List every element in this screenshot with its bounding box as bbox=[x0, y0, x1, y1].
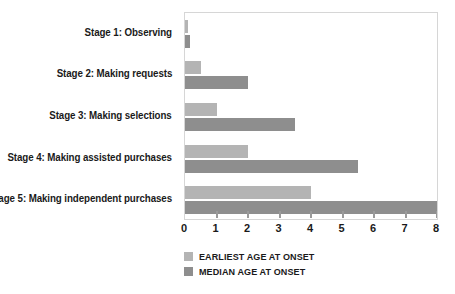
x-axis-tick-label: 3 bbox=[275, 222, 281, 234]
bar bbox=[185, 61, 201, 74]
bar-chart: Stage 1: ObservingStage 2: Making reques… bbox=[0, 0, 455, 294]
value-axis-labels: 012345678 bbox=[184, 222, 438, 240]
plot-area bbox=[184, 12, 438, 220]
legend-item[interactable]: EARLIEST AGE AT ONSET bbox=[184, 250, 444, 263]
axis-tick bbox=[436, 211, 438, 218]
x-axis-tick-label: 6 bbox=[370, 222, 376, 234]
axis-tick bbox=[373, 211, 375, 218]
bar bbox=[185, 76, 248, 89]
category-axis-labels: Stage 1: ObservingStage 2: Making reques… bbox=[0, 12, 178, 220]
chart-legend: EARLIEST AGE AT ONSETMEDIAN AGE AT ONSET bbox=[184, 250, 444, 280]
bar bbox=[185, 186, 311, 199]
legend-item-label: MEDIAN AGE AT ONSET bbox=[199, 266, 305, 277]
x-axis-tick-label: 5 bbox=[338, 222, 344, 234]
axis-tick bbox=[405, 211, 407, 218]
x-axis-tick-label: 1 bbox=[212, 222, 218, 234]
bar bbox=[185, 160, 358, 173]
legend-swatch-icon bbox=[184, 267, 193, 276]
bar bbox=[185, 35, 190, 48]
x-axis-tick-label: 4 bbox=[307, 222, 313, 234]
bar bbox=[185, 103, 217, 116]
category-label: Stage 5: Making independent purchases bbox=[0, 193, 172, 204]
category-label: Stage 3: Making selections bbox=[50, 110, 172, 121]
bar bbox=[185, 20, 188, 33]
category-label: Stage 4: Making assisted purchases bbox=[7, 152, 172, 163]
bar bbox=[185, 118, 295, 131]
legend-item-label: EARLIEST AGE AT ONSET bbox=[199, 251, 314, 262]
axis-tick bbox=[247, 211, 249, 218]
axis-tick bbox=[279, 211, 281, 218]
category-label: Stage 1: Observing bbox=[85, 27, 172, 38]
x-axis-tick-label: 7 bbox=[401, 222, 407, 234]
x-axis-tick-label: 2 bbox=[244, 222, 250, 234]
bars-layer bbox=[185, 13, 437, 219]
category-label: Stage 2: Making requests bbox=[56, 68, 172, 79]
x-axis-tick-label: 8 bbox=[433, 222, 439, 234]
bar bbox=[185, 145, 248, 158]
x-axis-tick-label: 0 bbox=[181, 222, 187, 234]
axis-tick bbox=[342, 211, 344, 218]
axis-tick bbox=[216, 211, 218, 218]
legend-item[interactable]: MEDIAN AGE AT ONSET bbox=[184, 265, 444, 278]
legend-swatch-icon bbox=[184, 252, 193, 261]
axis-tick bbox=[310, 211, 312, 218]
